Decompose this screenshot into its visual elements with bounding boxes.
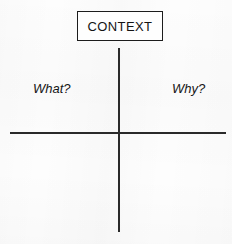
context-label: CONTEXT (88, 20, 153, 33)
quadrant-label-what: What? (33, 82, 71, 95)
vertical-divider-line (118, 48, 120, 232)
horizontal-divider-line (10, 132, 226, 134)
quadrant-label-why: Why? (172, 82, 205, 95)
quadrant-diagram: CONTEXT What? Why? (0, 0, 232, 244)
context-header-box: CONTEXT (77, 11, 163, 41)
